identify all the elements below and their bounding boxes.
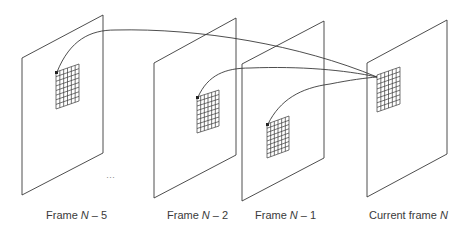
diagram-canvas: ··· Frame N – 5 Frame N – 2 Frame N – 1 …: [0, 0, 465, 239]
frame-n-5-block-grid: [56, 64, 79, 109]
current-frame-plane: [367, 20, 447, 197]
connection-curve-n-1: [268, 77, 377, 124]
frame-n-1-block-grid: [267, 116, 289, 158]
ellipsis-more-frames: ···: [106, 172, 115, 182]
frame-n-2-plane: [154, 18, 236, 198]
frame-n-5-plane: [22, 15, 103, 195]
diagram-svg: [0, 0, 465, 239]
current-frame-block-grid: [377, 67, 400, 112]
connection-curve-n-2: [198, 67, 377, 97]
label-current-frame: Current frame N: [369, 209, 448, 221]
label-frame-n-1: Frame N – 1: [255, 209, 316, 221]
label-frame-n-2: Frame N – 2: [167, 209, 228, 221]
frame-n-2-block-grid: [197, 90, 219, 133]
label-frame-n-5: Frame N – 5: [46, 209, 107, 221]
